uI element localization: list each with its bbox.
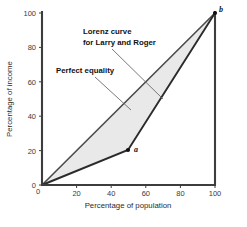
annotation-lorenz-line2: for Larry and Roger xyxy=(83,38,156,47)
x-tick-label-100: 100 xyxy=(209,189,222,198)
data-point-a-label: a xyxy=(134,145,138,154)
data-point-b-label: b xyxy=(219,5,223,14)
data-point-b-marker xyxy=(213,11,217,15)
leader-line-equality xyxy=(95,77,131,110)
y-tick-label-100: 100 xyxy=(23,9,36,18)
x-tick-label-60: 60 xyxy=(142,189,150,198)
x-tick-label-80: 80 xyxy=(176,189,184,198)
y-tick-label-40: 40 xyxy=(28,112,36,121)
x-tick-label-20: 20 xyxy=(72,189,80,198)
y-tick-label-20: 20 xyxy=(28,147,36,156)
lorenz-curve-figure: 0 20 40 60 80 100 0 20 40 60 80 100 Perc… xyxy=(0,0,247,227)
y-axis-title: Percentage of income xyxy=(5,61,14,137)
annotation-lorenz-line1: Lorenz curve xyxy=(83,27,132,36)
x-tick-label-40: 40 xyxy=(107,189,115,198)
x-axis-title: Percentage of population xyxy=(85,201,172,210)
annotation-equality-line1: Perfect equality xyxy=(56,66,115,75)
x-tick-label-0: 0 xyxy=(36,187,40,196)
data-point-a-marker xyxy=(126,148,130,152)
y-tick-label-80: 80 xyxy=(28,43,36,52)
y-tick-label-60: 60 xyxy=(28,78,36,87)
chart-canvas: 0 20 40 60 80 100 0 20 40 60 80 100 Perc… xyxy=(0,0,247,227)
